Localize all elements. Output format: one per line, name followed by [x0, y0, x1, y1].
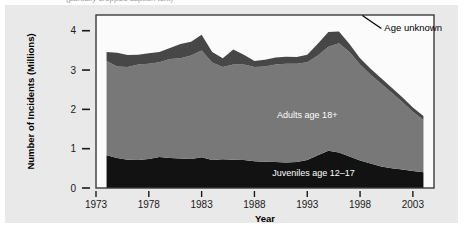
series-annotation-2: Juveniles age 12–17 [272, 168, 355, 178]
x-axis-title: Year [255, 213, 275, 224]
x-tick-label-0: 1973 [85, 199, 108, 210]
y-tick-label-1: 1 [70, 143, 76, 154]
y-tick-label-3: 3 [70, 65, 76, 76]
series-annotation-1: Adults age 18+ [277, 110, 337, 120]
stacked-area-chart: 01234Number of Incidents (Millions)19731… [0, 0, 466, 232]
y-tick-label-0: 0 [70, 183, 76, 194]
y-tick-label-4: 4 [70, 25, 76, 36]
x-tick-label-6: 2003 [402, 199, 425, 210]
x-tick-label-1: 1978 [138, 199, 161, 210]
y-tick-label-2: 2 [70, 104, 76, 115]
y-axis-title: Number of Incidents (Millions) [25, 33, 36, 169]
x-tick-label-5: 1998 [349, 199, 372, 210]
series-annotation-0: Age unknown [384, 22, 442, 33]
chart-page: (partially cropped caption text) 01234Nu… [0, 0, 466, 232]
x-tick-label-3: 1988 [243, 199, 266, 210]
x-tick-label-4: 1993 [296, 199, 319, 210]
x-tick-label-2: 1983 [191, 199, 214, 210]
